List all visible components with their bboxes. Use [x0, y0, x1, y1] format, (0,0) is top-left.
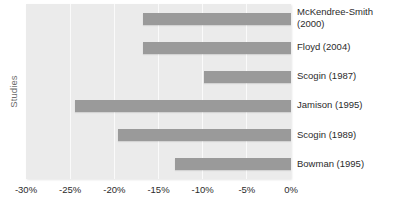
x-tick-label: 0% [284, 184, 298, 195]
category-label-list: McKendree-Smith (2000)Floyd (2004)Scogin… [297, 4, 396, 179]
plot-area [26, 4, 291, 179]
x-tick-label: -15% [147, 184, 169, 195]
gridline [158, 4, 159, 179]
bar [118, 129, 291, 141]
bar [143, 42, 291, 54]
gridline [202, 4, 203, 179]
category-label: Bowman (1995) [297, 158, 364, 170]
category-label: McKendree-Smith (2000) [297, 6, 373, 29]
y-axis-title: Studies [8, 57, 19, 127]
x-tick-label: -10% [192, 184, 214, 195]
bar [75, 100, 291, 112]
bar [143, 13, 291, 25]
category-label: Scogin (1987) [297, 70, 356, 82]
gridline [114, 4, 115, 179]
x-axis-tick-labels: -30%-25%-20%-15%-10%-5%0% [0, 184, 396, 200]
bar [204, 71, 291, 83]
gridline [70, 4, 71, 179]
category-label: Jamison (1995) [297, 99, 362, 111]
category-label: Scogin (1989) [297, 129, 356, 141]
x-tick-label: -30% [15, 184, 37, 195]
category-label: Floyd (2004) [297, 41, 350, 53]
bar [175, 158, 291, 170]
bar-chart: Studies McKendree-Smith (2000)Floyd (200… [0, 0, 396, 214]
x-tick-label: -25% [59, 184, 81, 195]
x-tick-label: -5% [238, 184, 255, 195]
x-tick-label: -20% [103, 184, 125, 195]
gridline [246, 4, 247, 179]
